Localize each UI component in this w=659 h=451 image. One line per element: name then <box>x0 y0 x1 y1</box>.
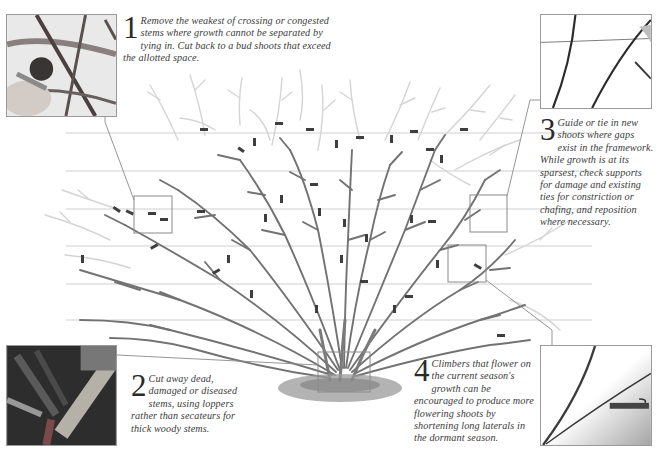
pruning-diagram: 1 Remove the weakest of crossing or cong… <box>0 0 659 451</box>
step-2-text: Cut away dead, damaged or diseased stems… <box>131 373 237 434</box>
step-4-text: Climbers that flower on the current seas… <box>414 358 534 443</box>
step-1-text: Remove the weakest of crossing or conges… <box>123 15 331 63</box>
step-1-number: 1 <box>123 16 139 40</box>
step-3-number: 3 <box>540 118 556 142</box>
step-3-text: Guide or tie in new shoots where gaps ex… <box>540 117 653 227</box>
step-1-caption: 1 Remove the weakest of crossing or cong… <box>123 15 333 65</box>
step-4-number: 4 <box>414 359 430 383</box>
new-growth-shoots <box>45 70 570 330</box>
step-2-number: 2 <box>131 374 147 398</box>
photo-laterals-tied <box>540 345 652 446</box>
step-3-caption: 3 Guide or tie in new shoots where gaps … <box>540 117 656 229</box>
photo-crossing-stems <box>6 14 117 117</box>
step-4-caption: 4 Climbers that flower on the current se… <box>414 358 534 445</box>
trunk-base <box>320 320 375 380</box>
callout-box-step-4 <box>448 245 486 282</box>
photo-new-shoots-wire <box>540 14 652 109</box>
step-2-caption: 2 Cut away dead, damaged or diseased ste… <box>131 373 243 435</box>
photo-loppers-cutting <box>6 345 117 446</box>
